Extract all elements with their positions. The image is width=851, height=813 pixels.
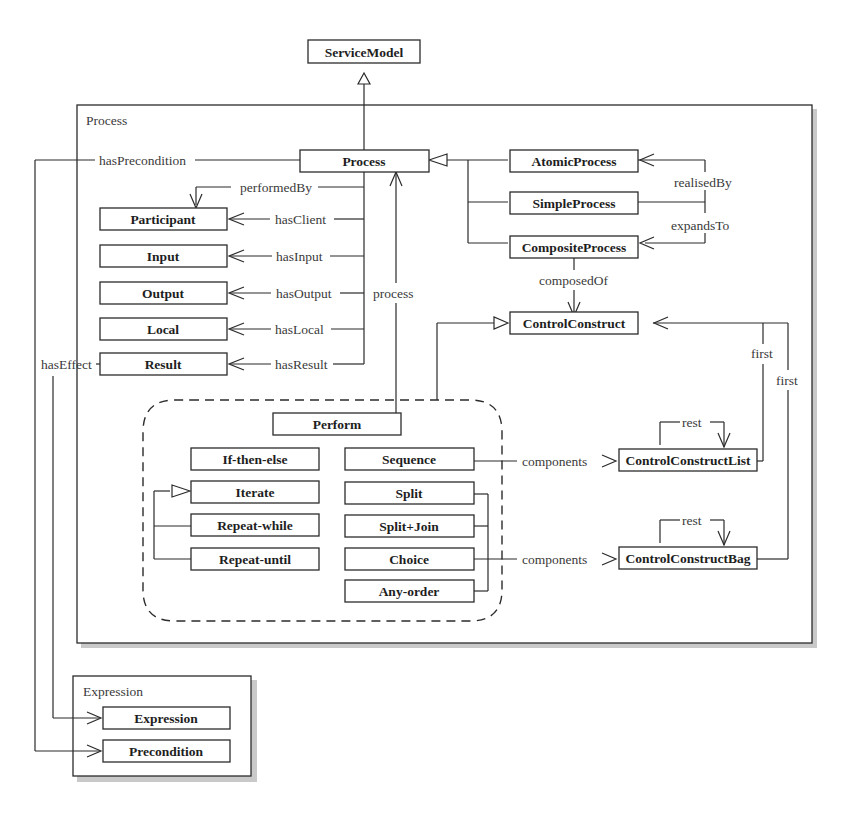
svg-text:Precondition: Precondition <box>129 744 203 759</box>
svg-text:Expression: Expression <box>134 711 198 726</box>
class-perform[interactable]: Perform <box>273 413 401 435</box>
svg-text:Output: Output <box>142 286 185 301</box>
class-choice[interactable]: Choice <box>345 548 474 570</box>
svg-text:Iterate: Iterate <box>236 485 275 500</box>
svg-text:Split: Split <box>395 486 423 501</box>
svg-text:AtomicProcess: AtomicProcess <box>531 154 616 169</box>
svg-text:Local: Local <box>147 322 179 337</box>
class-precondition[interactable]: Precondition <box>103 740 230 762</box>
process-frame-title: Process <box>86 113 127 128</box>
class-iterate[interactable]: Iterate <box>191 481 319 503</box>
class-repeat-while[interactable]: Repeat-while <box>191 514 319 536</box>
class-if-then-else[interactable]: If-then-else <box>191 448 319 470</box>
svg-text:Perform: Perform <box>313 417 362 432</box>
class-any-order[interactable]: Any-order <box>345 580 474 602</box>
label-has-result: hasResult <box>275 357 328 372</box>
class-service-model[interactable]: ServiceModel <box>308 40 420 63</box>
class-local[interactable]: Local <box>100 318 227 340</box>
class-control-construct-bag[interactable]: ControlConstructBag <box>619 547 757 569</box>
label-first-bag: first <box>776 373 798 388</box>
svg-text:ServiceModel: ServiceModel <box>325 45 404 60</box>
expression-frame-title: Expression <box>83 684 143 699</box>
class-participant[interactable]: Participant <box>100 208 227 230</box>
class-expression[interactable]: Expression <box>103 707 230 729</box>
svg-text:Sequence: Sequence <box>382 452 436 467</box>
label-first-list: first <box>751 346 773 361</box>
svg-text:Any-order: Any-order <box>379 584 440 599</box>
process-ontology-diagram: Process Expression <box>0 0 851 813</box>
class-sequence[interactable]: Sequence <box>345 448 474 470</box>
svg-text:ControlConstruct: ControlConstruct <box>523 316 626 331</box>
label-components-bag: components <box>522 552 587 567</box>
class-process[interactable]: Process <box>300 150 429 172</box>
class-output[interactable]: Output <box>100 282 227 304</box>
svg-text:SimpleProcess: SimpleProcess <box>533 196 616 211</box>
label-rest-list: rest <box>682 415 702 430</box>
label-realised-by: realisedBy <box>674 175 732 190</box>
label-has-effect: hasEffect <box>41 357 92 372</box>
svg-text:Result: Result <box>145 357 182 372</box>
svg-text:Process: Process <box>342 154 385 169</box>
class-control-construct-list[interactable]: ControlConstructList <box>619 449 757 471</box>
label-has-input: hasInput <box>276 249 323 264</box>
class-simple-process[interactable]: SimpleProcess <box>510 192 638 214</box>
svg-text:Participant: Participant <box>130 212 196 227</box>
class-split-join[interactable]: Split+Join <box>345 515 474 537</box>
label-process: process <box>373 286 414 301</box>
label-expands-to: expandsTo <box>671 218 730 233</box>
class-atomic-process[interactable]: AtomicProcess <box>510 150 638 172</box>
svg-text:ControlConstructList: ControlConstructList <box>625 453 751 468</box>
class-result[interactable]: Result <box>100 353 227 375</box>
svg-text:Repeat-while: Repeat-while <box>217 518 293 533</box>
label-has-output: hasOutput <box>276 286 332 301</box>
svg-text:CompositeProcess: CompositeProcess <box>522 240 627 255</box>
class-repeat-until[interactable]: Repeat-until <box>191 548 319 570</box>
label-performed-by: performedBy <box>240 180 312 195</box>
label-components-list: components <box>522 454 587 469</box>
label-rest-bag: rest <box>682 513 702 528</box>
class-composite-process[interactable]: CompositeProcess <box>510 236 638 258</box>
svg-text:Split+Join: Split+Join <box>379 519 439 534</box>
class-split[interactable]: Split <box>345 482 474 504</box>
label-has-local: hasLocal <box>275 322 324 337</box>
svg-text:Repeat-until: Repeat-until <box>219 552 291 567</box>
label-has-precondition: hasPrecondition <box>99 153 186 168</box>
class-control-construct[interactable]: ControlConstruct <box>510 312 638 334</box>
svg-text:Choice: Choice <box>389 552 429 567</box>
svg-text:Input: Input <box>147 249 180 264</box>
label-has-client: hasClient <box>275 212 326 227</box>
svg-text:ControlConstructBag: ControlConstructBag <box>625 551 750 566</box>
svg-text:If-then-else: If-then-else <box>222 452 287 467</box>
label-composed-of: composedOf <box>539 273 608 288</box>
class-input[interactable]: Input <box>100 245 227 267</box>
